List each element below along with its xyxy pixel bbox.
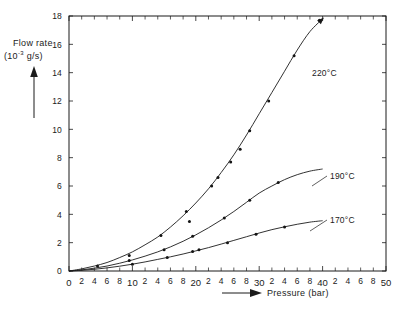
data-point-170 [283, 226, 286, 229]
y-axis-title-line2: (10-3 g/s) [4, 50, 43, 61]
data-point-190 [277, 181, 280, 184]
curve-label-170: 170°C [310, 215, 355, 231]
data-point-190 [223, 216, 226, 219]
x-tick-label: 8 [371, 276, 376, 286]
x-tick-label: 2 [206, 276, 211, 286]
y-axis-title-group: Flow rate (10-3 g/s) [4, 38, 53, 118]
data-point-190 [163, 248, 166, 251]
y-tick-label: 6 [57, 181, 62, 191]
data-point-170 [166, 256, 169, 259]
data-point-170 [226, 241, 229, 244]
data-point-170 [197, 248, 200, 251]
x-tick-label: 8 [307, 276, 312, 286]
x-tick-label: 8 [117, 276, 122, 286]
curve-label-190: 190°C [312, 171, 355, 186]
data-point-220 [248, 129, 251, 132]
data-point-220 [239, 148, 242, 151]
data-point-220 [210, 185, 213, 188]
y-axis-arrow-head [30, 66, 38, 77]
y-tick-label: 0 [57, 266, 62, 276]
data-curves [69, 17, 324, 271]
x-tick-label: 2 [79, 276, 84, 286]
y-tick-label: 4 [57, 210, 62, 220]
y-tick-label: 8 [57, 153, 62, 163]
right-axis-ticks [382, 16, 386, 271]
x-tick-label-decade: 0 [66, 277, 71, 288]
curve-label-220-text: 220°C [312, 68, 337, 78]
y-axis-title-line1: Flow rate [13, 38, 53, 48]
x-tick-label: 4 [282, 276, 287, 286]
x-tick-label: 2 [269, 276, 274, 286]
x-tick-label: 2 [333, 276, 338, 286]
data-point-170 [131, 263, 134, 266]
x-tick-label-decade: 40 [317, 277, 328, 288]
x-axis-tick-labels: 0246810246820246830246840246850 [66, 276, 391, 289]
x-tick-label: 8 [181, 276, 186, 286]
y-tick-label: 14 [52, 68, 62, 78]
data-point-220 [128, 254, 131, 257]
y-tick-label: 2 [57, 238, 62, 248]
x-tick-label: 8 [244, 276, 249, 286]
plot-border [69, 16, 386, 271]
x-tick-label-decade: 30 [254, 277, 265, 288]
y-tick-label: 16 [52, 40, 62, 50]
y-axis-ticks [69, 16, 73, 271]
data-point-220 [159, 234, 162, 237]
data-curve-220 [69, 19, 323, 271]
x-tick-label: 2 [143, 276, 148, 286]
x-axis-title: Pressure (bar) [267, 288, 329, 298]
y-tick-label: 18 [52, 11, 62, 21]
data-point-220 [318, 19, 321, 22]
y-axis-title-prefix: (10 [4, 51, 18, 61]
flow-rate-pressure-figure: 024681012141618 024681024682024683024684… [0, 0, 407, 310]
curve-label-220: 220°C [312, 68, 337, 78]
data-point-220 [293, 54, 296, 57]
data-point-170 [191, 250, 194, 253]
curve-label-190-leader [312, 176, 327, 186]
data-point-220 [216, 176, 219, 179]
top-axis-ticks [69, 16, 386, 21]
y-tick-label: 12 [52, 96, 62, 106]
chart-canvas: 024681012141618 024681024682024683024684… [0, 0, 407, 310]
data-point-190 [128, 259, 131, 262]
x-axis-title-group: Pressure (bar) [222, 288, 329, 298]
data-point-220 [96, 265, 99, 268]
curve-label-170-text: 170°C [330, 215, 355, 225]
y-axis-title-suffix: g/s) [24, 51, 43, 61]
data-point-190 [191, 235, 194, 238]
data-point-220 [267, 100, 270, 103]
data-points [96, 19, 321, 268]
x-tick-label: 4 [345, 276, 350, 286]
curve-label-190-text: 190°C [330, 171, 355, 181]
x-tick-label: 6 [231, 276, 236, 286]
data-point-220 [188, 220, 191, 223]
data-point-220 [229, 160, 232, 163]
data-point-190 [248, 199, 251, 202]
x-tick-label: 6 [358, 276, 363, 286]
data-point-170 [255, 233, 258, 236]
x-tick-label-decade: 20 [191, 277, 202, 288]
x-tick-label: 4 [219, 276, 224, 286]
x-tick-label: 6 [295, 276, 300, 286]
x-tick-label: 4 [155, 276, 160, 286]
x-tick-label-decade: 10 [127, 277, 138, 288]
data-curve-190 [69, 169, 323, 271]
plot-frame [69, 16, 386, 271]
x-tick-label: 4 [92, 276, 97, 286]
x-axis-arrow-head [250, 289, 262, 297]
y-tick-label: 10 [52, 125, 62, 135]
x-tick-label-decade: 50 [381, 277, 392, 288]
x-tick-label: 6 [168, 276, 173, 286]
y-axis-tick-labels: 024681012141618 [52, 11, 62, 276]
x-tick-label: 6 [105, 276, 110, 286]
data-point-220 [185, 210, 188, 213]
